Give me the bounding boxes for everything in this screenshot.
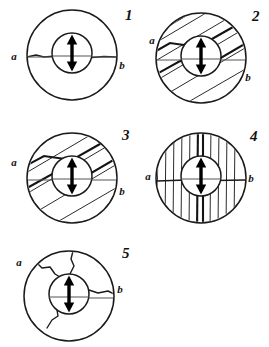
- label-a-3: a: [11, 156, 17, 168]
- panel-number-5: 5: [122, 245, 130, 261]
- label-a-4: a: [145, 170, 151, 182]
- label-a-2: a: [149, 34, 155, 46]
- panel-2: 2 a b: [140, 0, 268, 116]
- panel-1: 1 a b: [11, 7, 132, 100]
- label-b-2: b: [245, 71, 251, 83]
- panel-number-3: 3: [121, 127, 130, 143]
- panel-4: 4 a b: [145, 121, 258, 234]
- panel-number-1: 1: [125, 7, 133, 23]
- label-b-5: b: [117, 283, 123, 295]
- panel-5: 5 a b: [16, 245, 130, 341]
- panel-number-2: 2: [251, 8, 260, 24]
- label-a-1: a: [11, 50, 17, 62]
- fracture-pattern-figure: 1 a b 2 a b: [0, 0, 269, 347]
- label-b-3: b: [119, 185, 125, 197]
- figure-root: 1 a b 2 a b: [0, 0, 269, 347]
- panel-3: 3 a b: [11, 92, 140, 232]
- panel-number-4: 4: [249, 128, 258, 144]
- label-a-5: a: [16, 256, 22, 268]
- label-b-1: b: [119, 59, 125, 71]
- label-b-4: b: [248, 172, 254, 184]
